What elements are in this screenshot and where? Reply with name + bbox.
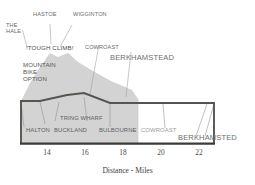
- x-tick-20: 20: [150, 148, 172, 157]
- label-tough-climb: !TOUGH CLIMB!: [26, 45, 74, 52]
- label-cowroast-upper: COWROAST: [85, 44, 119, 50]
- label-the-hale-line2: HALE: [6, 28, 21, 34]
- label-the-hale: THE HALE: [6, 22, 21, 35]
- x-tick-16: 16: [74, 148, 96, 157]
- label-wigginton: WIGGINTON: [73, 11, 107, 17]
- label-tring-wharf: TRING WHARF: [60, 115, 103, 122]
- label-halton: HALTON: [26, 127, 50, 134]
- elevation-profile-figure: THE HALE HASTOE WIGGINTON !TOUGH CLIMB! …: [0, 0, 255, 185]
- profile-chart-canvas: [0, 0, 255, 185]
- label-buckland: BUCKLAND: [54, 127, 87, 134]
- x-tick-18: 18: [112, 148, 134, 157]
- label-bulbourne: BULBOURNE: [99, 127, 137, 134]
- x-axis-title: Distance - Miles: [0, 166, 255, 175]
- x-tick-22: 22: [188, 148, 210, 157]
- x-tick-14: 14: [36, 148, 58, 157]
- label-mountain-bike-option: MOUNTAIN BIKE OPTION: [23, 62, 56, 82]
- label-cowroast-lower: COWROAST: [141, 127, 177, 134]
- label-berkhamstead-upper: BERKHAMSTEAD: [110, 54, 174, 63]
- label-option: OPTION: [23, 76, 56, 83]
- label-hastoe: HASTOE: [33, 11, 57, 17]
- label-berkhamsted-lower: BERKHAMSTED: [178, 134, 237, 143]
